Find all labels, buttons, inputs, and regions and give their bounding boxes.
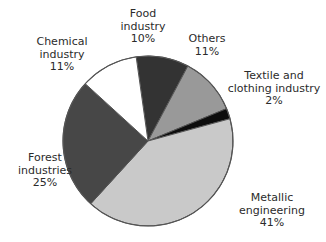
slice-value-forest: 25%: [2, 177, 88, 190]
slice-label-metallic-line1: Metallic: [251, 191, 294, 204]
slice-value-others: 11%: [176, 46, 238, 59]
slice-label-forest-line2: industries: [18, 164, 72, 177]
slice-label-chemical-line2: industry: [39, 48, 84, 61]
slice-label-metallic-engineering: Metallic engineering 41%: [222, 192, 322, 230]
slice-label-textile-and-clothing-industry: Textile and clothing industry 2%: [222, 70, 326, 108]
pie-slices-group: [63, 56, 233, 226]
slice-label-food-industry-line2: industry: [120, 20, 165, 33]
pie-chart-figure: Food industry 10% Others 11% Textile and…: [0, 0, 326, 242]
slice-label-others-line1: Others: [189, 32, 226, 45]
slice-label-textile-line1: Textile and: [244, 69, 303, 82]
slice-label-food-industry-line1: Food: [130, 7, 156, 20]
slice-value-metallic: 41%: [222, 217, 322, 230]
slice-label-others: Others 11%: [176, 33, 238, 58]
slice-label-forest-line1: Forest: [28, 151, 62, 164]
slice-label-chemical-line1: Chemical: [36, 35, 87, 48]
slice-label-metallic-line2: engineering: [239, 204, 305, 217]
slice-label-textile-line2: clothing industry: [228, 82, 321, 95]
slice-value-food-industry: 10%: [104, 33, 182, 46]
slice-label-forest-industries: Forest industries 25%: [2, 152, 88, 190]
slice-label-food-industry: Food industry 10%: [104, 8, 182, 46]
slice-value-textile: 2%: [222, 95, 326, 108]
slice-label-chemical-industry: Chemical industry 11%: [22, 36, 102, 74]
slice-value-chemical: 11%: [22, 61, 102, 74]
